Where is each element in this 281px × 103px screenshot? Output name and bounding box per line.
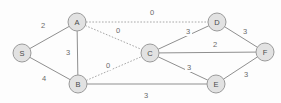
edge-a-c xyxy=(85,26,141,50)
node-f[interactable]: F xyxy=(256,43,274,61)
edge-weight-s-b: 4 xyxy=(42,74,46,83)
edge-s-a xyxy=(30,26,69,48)
edge-weight-a-c: 0 xyxy=(116,26,120,35)
edge-c-d xyxy=(158,26,209,49)
edge-weight-c-e: 3 xyxy=(187,63,191,72)
node-label-b: B xyxy=(75,80,80,89)
edge-weight-a-d: 0 xyxy=(150,8,154,17)
node-label-f: F xyxy=(263,48,268,57)
edge-weight-c-d: 3 xyxy=(186,27,190,36)
edge-b-c xyxy=(86,57,141,81)
graph-diagram: 243000332333 SABCDEF xyxy=(0,0,281,103)
edge-weight-s-a: 2 xyxy=(41,21,45,30)
edge-weight-c-f: 2 xyxy=(213,40,217,49)
edge-c-f xyxy=(159,52,256,53)
edge-weight-d-f: 3 xyxy=(243,27,247,36)
edge-weight-a-b: 3 xyxy=(66,48,70,57)
node-b[interactable]: B xyxy=(69,75,87,93)
edge-weight-b-c: 0 xyxy=(106,61,110,70)
edge-weight-b-e: 3 xyxy=(144,91,148,100)
node-label-a: A xyxy=(74,18,79,27)
node-label-e: E xyxy=(213,80,218,89)
graph-canvas: 243000332333 SABCDEF xyxy=(0,0,281,103)
node-label-s: S xyxy=(19,49,24,58)
edge-weight-e-f: 3 xyxy=(244,70,248,79)
node-label-c: C xyxy=(147,49,153,58)
node-label-d: D xyxy=(214,18,220,27)
node-e[interactable]: E xyxy=(207,75,225,93)
edge-a-b xyxy=(77,31,78,75)
node-layer: SABCDEF xyxy=(13,13,274,93)
node-d[interactable]: D xyxy=(208,13,226,31)
node-c[interactable]: C xyxy=(141,44,159,62)
edge-e-f xyxy=(224,57,258,79)
node-s[interactable]: S xyxy=(13,44,31,62)
edge-s-b xyxy=(30,57,70,79)
node-a[interactable]: A xyxy=(68,13,86,31)
edge-c-e xyxy=(158,57,208,80)
